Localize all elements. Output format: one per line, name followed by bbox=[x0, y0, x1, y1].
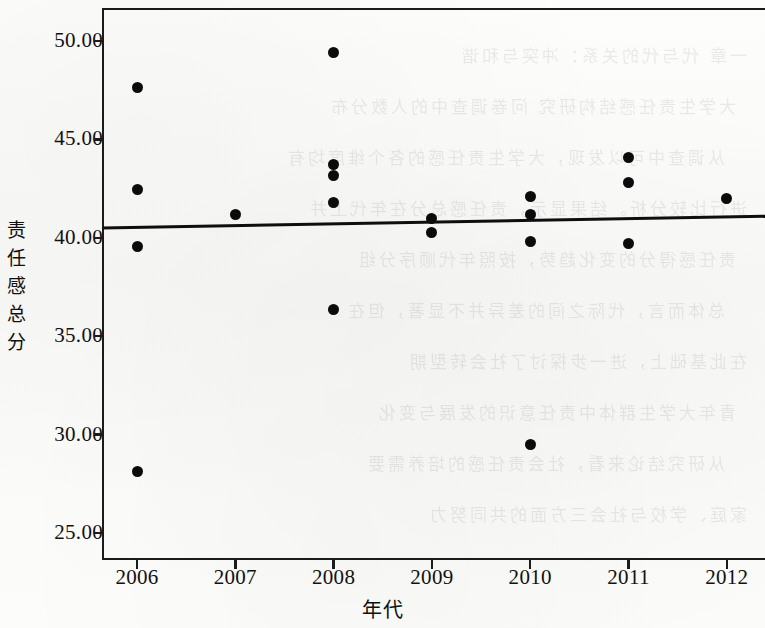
x-axis-tick-label: 2011 bbox=[607, 567, 649, 588]
x-axis-tick-label: 2012 bbox=[705, 567, 748, 588]
x-axis-tick-label: 2007 bbox=[214, 567, 257, 588]
scanned-figure-page: 一章 代与代的关系：冲突与和谐大学生责任感结构研究 问卷调查中的人数分布从调查中… bbox=[0, 0, 765, 628]
x-axis-tick-label: 2006 bbox=[115, 567, 158, 588]
x-axis-tick-label: 2008 bbox=[312, 567, 355, 588]
x-axis-title: 年代 bbox=[0, 594, 765, 623]
x-axis-tick-label: 2009 bbox=[410, 567, 453, 588]
x-axis-tick-label: 2010 bbox=[509, 567, 552, 588]
x-axis-tick-group: 2006200720082009201020112012 bbox=[0, 0, 765, 628]
